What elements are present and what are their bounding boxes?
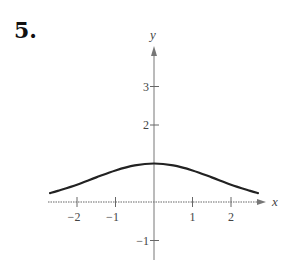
x-tick-label: −1	[106, 210, 119, 224]
axes	[48, 46, 266, 260]
chart: −2−11232−1 x y	[0, 0, 298, 279]
y-axis-label: y	[148, 27, 156, 42]
x-tick-label: 2	[228, 210, 234, 224]
x-axis-label: x	[271, 194, 278, 209]
x-axis-arrow-icon	[257, 199, 266, 205]
x-tick-label: 1	[190, 210, 196, 224]
y-axis-arrow-icon	[151, 46, 157, 56]
x-tick-label: −2	[68, 210, 81, 224]
y-tick-label: −1	[136, 234, 149, 248]
y-tick-label: 2	[143, 118, 149, 132]
y-tick-label: 3	[143, 80, 149, 94]
